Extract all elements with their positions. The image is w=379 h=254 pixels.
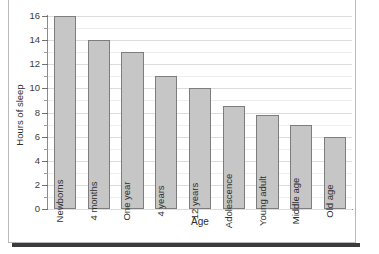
bar-category-label: 12 years: [190, 183, 200, 219]
bar-category-label: One year: [122, 181, 132, 220]
bar[interactable]: 4 months: [88, 40, 110, 209]
y-axis-tick-label: 2: [14, 180, 40, 190]
y-axis-tick-label: 4: [14, 156, 40, 166]
bar[interactable]: 12 years: [189, 88, 211, 209]
bar[interactable]: Adolescence: [223, 106, 245, 209]
y-axis-tick-label: 8: [14, 108, 40, 118]
bar-category-label: 4 years: [156, 185, 166, 216]
y-axis-tick-label: 10: [14, 83, 40, 93]
bar[interactable]: Middle age: [290, 125, 312, 209]
bar[interactable]: One year: [121, 52, 143, 209]
y-axis-tick-label: 16: [14, 11, 40, 21]
bar-chart: Hours of sleep 0246810121416 Newborns4 m…: [0, 0, 379, 254]
bar[interactable]: Old age: [324, 137, 346, 209]
bar[interactable]: Young adult: [256, 115, 278, 209]
y-axis-tick-label: 14: [14, 35, 40, 45]
gridline-major: [48, 16, 352, 17]
bar-category-label: 4 months: [89, 181, 99, 220]
y-axis-tick-label: 12: [14, 59, 40, 69]
bar-category-label: Old age: [325, 184, 335, 217]
bar[interactable]: Newborns: [54, 16, 76, 209]
plot-area: Newborns4 monthsOne year4 years12 yearsA…: [48, 16, 352, 209]
y-axis-tick-label: 0: [14, 204, 40, 214]
x-axis-title: Age: [48, 216, 352, 227]
gridline-minor: [48, 28, 352, 29]
y-axis-tick-label: 6: [14, 132, 40, 142]
bar[interactable]: 4 years: [155, 76, 177, 209]
